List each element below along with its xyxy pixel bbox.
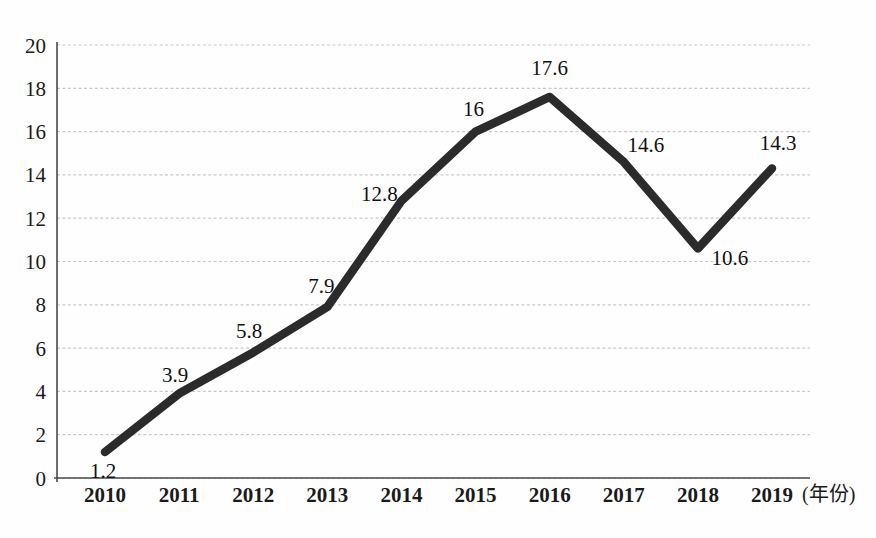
- x-axis-tick-label: 2018: [677, 483, 719, 507]
- y-axis-tick-label: 4: [36, 380, 47, 404]
- y-axis-tick-label: 6: [36, 337, 47, 361]
- x-axis-caption: (年份): [802, 483, 855, 506]
- x-axis-caption-label: (年份): [802, 483, 855, 506]
- data-point-label: 16: [463, 97, 484, 121]
- y-axis-tick-label: 16: [25, 120, 46, 144]
- x-axis-tick-label: 2019: [751, 483, 793, 507]
- x-axis-tick-label: 2014: [380, 483, 423, 507]
- y-axis-tick-label: 20: [25, 34, 46, 58]
- data-point-label: 5.8: [236, 319, 262, 343]
- data-point-label: 7.9: [308, 274, 334, 298]
- x-axis-tick-label: 2012: [232, 483, 274, 507]
- data-point-label: 12.8: [361, 182, 398, 206]
- data-point-labels: 1.23.95.87.912.81617.614.610.614.3: [90, 56, 797, 483]
- x-axis-tick-label: 2013: [306, 483, 348, 507]
- data-series: [105, 97, 772, 452]
- y-axis-tick-label: 8: [36, 293, 47, 317]
- chart-canvas: 02468101214161820 2010201120122013201420…: [0, 0, 876, 538]
- gridlines: [57, 45, 810, 478]
- y-axis-tick-label: 18: [25, 77, 46, 101]
- x-axis-tick-label: 2015: [455, 483, 497, 507]
- data-point-label: 17.6: [531, 56, 568, 80]
- data-point-label: 10.6: [712, 246, 749, 270]
- line-chart: 02468101214161820 2010201120122013201420…: [0, 0, 876, 538]
- y-axis-tick-label: 10: [25, 250, 46, 274]
- x-axis-tick-label: 2011: [159, 483, 200, 507]
- data-point-label: 14.6: [627, 133, 664, 157]
- series-line: [105, 97, 772, 452]
- y-axis-tick-label: 0: [36, 467, 47, 491]
- x-axis-tick-label: 2016: [529, 483, 571, 507]
- y-axis-tick-labels: 02468101214161820: [25, 34, 47, 491]
- data-point-label: 1.2: [90, 459, 116, 483]
- data-point-label: 14.3: [760, 131, 797, 155]
- y-axis-tick-label: 12: [25, 207, 46, 231]
- data-point-label: 3.9: [162, 363, 188, 387]
- y-axis-tick-label: 2: [36, 423, 47, 447]
- x-axis-tick-labels: 2010201120122013201420152016201720182019: [84, 483, 793, 507]
- x-axis-tick-label: 2010: [84, 483, 126, 507]
- x-axis-tick-label: 2017: [603, 483, 645, 507]
- y-axis-tick-label: 14: [25, 163, 47, 187]
